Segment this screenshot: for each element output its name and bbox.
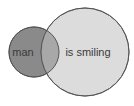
- venn-diagram: man is smiling: [0, 0, 134, 106]
- set-is-smiling-label: is smiling: [65, 46, 110, 58]
- venn-svg: man is smiling: [0, 0, 134, 106]
- set-man-label: man: [12, 46, 33, 58]
